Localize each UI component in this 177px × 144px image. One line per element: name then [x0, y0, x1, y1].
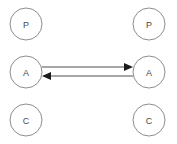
node-p-left[interactable]: P: [10, 8, 42, 40]
node-c-left[interactable]: C: [10, 104, 42, 136]
node-layer: P P A A C C: [10, 8, 165, 136]
node-c-right[interactable]: C: [133, 104, 165, 136]
node-a-right[interactable]: A: [133, 56, 165, 88]
node-label: P: [146, 20, 152, 30]
edge-layer: [42, 63, 133, 80]
edge-a-left-to-a-right: [42, 63, 133, 71]
node-graph-diagram: P P A A C C: [0, 0, 177, 144]
node-label: A: [23, 68, 29, 78]
node-label: C: [23, 116, 30, 126]
node-p-right[interactable]: P: [133, 8, 165, 40]
diagram-canvas: P P A A C C: [0, 0, 177, 144]
node-label: P: [23, 20, 29, 30]
node-label: A: [146, 68, 152, 78]
arrowhead-right-icon: [124, 63, 133, 71]
node-label: C: [146, 116, 153, 126]
edge-a-right-to-a-left: [42, 72, 133, 80]
arrowhead-left-icon: [42, 72, 51, 80]
node-a-left[interactable]: A: [10, 56, 42, 88]
